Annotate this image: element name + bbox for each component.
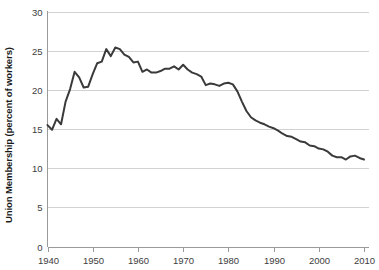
chart-plot-area: 051015202530 194019501960197019801990200… [0, 0, 379, 270]
y-tick-label: 5 [37, 202, 42, 213]
x-tick-label: 1950 [83, 255, 104, 266]
y-tick-label: 20 [32, 85, 43, 96]
union-membership-series-line [48, 48, 364, 160]
y-tick-label: 15 [32, 124, 43, 135]
x-tick-label: 2000 [309, 255, 330, 266]
y-tick-label: 30 [32, 7, 43, 18]
x-axis-tick-marks [49, 248, 365, 252]
x-tick-label: 2010 [354, 255, 375, 266]
x-axis-tick-labels: 19401950196019701980199020002010 [38, 255, 375, 266]
y-tick-label: 0 [37, 242, 42, 253]
union-membership-line-chart: Union Membership (percent of workers) 05… [0, 0, 379, 270]
y-tick-label: 10 [32, 163, 43, 174]
gridlines [48, 13, 369, 248]
y-axis-tick-labels: 051015202530 [32, 7, 43, 253]
y-tick-label: 25 [32, 46, 43, 57]
x-tick-label: 1980 [218, 255, 239, 266]
x-tick-label: 1990 [264, 255, 285, 266]
x-tick-label: 1970 [173, 255, 194, 266]
x-tick-label: 1960 [128, 255, 149, 266]
x-tick-label: 1940 [38, 255, 59, 266]
